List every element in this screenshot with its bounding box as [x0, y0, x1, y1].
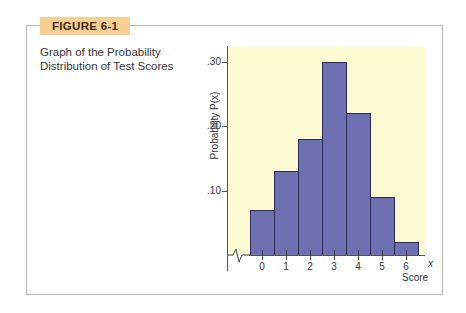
x-tick-label: 5: [375, 261, 389, 272]
x-axis: [249, 255, 425, 256]
y-axis: [227, 46, 228, 271]
x-tick: [334, 250, 335, 260]
y-tick-label: .10: [191, 185, 221, 196]
axis-break-icon: [227, 246, 251, 266]
x-tick: [358, 250, 359, 260]
y-axis-title: Probability P(x): [209, 71, 220, 181]
figure-caption: Graph of the Probability Distribution of…: [40, 45, 210, 73]
x-tick-label: 6: [399, 261, 413, 272]
y-tick: [222, 62, 228, 63]
x-tick-label: 0: [255, 261, 269, 272]
bar-5: [370, 197, 395, 256]
x-tick: [310, 250, 311, 260]
bar-1: [274, 171, 299, 256]
bar-3: [322, 62, 347, 257]
x-axis-title: Score: [402, 272, 428, 283]
bar-4: [346, 113, 371, 256]
x-tick-label: 3: [327, 261, 341, 272]
bar-2: [298, 139, 323, 256]
x-variable-label: x: [428, 258, 433, 269]
x-tick: [286, 250, 287, 260]
y-tick: [222, 126, 228, 127]
x-tick-label: 1: [279, 261, 293, 272]
x-tick: [406, 250, 407, 260]
caption-line-2: Distribution of Test Scores: [40, 59, 210, 73]
x-tick: [382, 250, 383, 260]
x-tick-label: 4: [351, 261, 365, 272]
y-tick: [222, 191, 228, 192]
x-tick-label: 2: [303, 261, 317, 272]
figure-label: FIGURE 6-1: [40, 17, 130, 35]
x-tick: [262, 250, 263, 260]
y-tick-label: .30: [191, 56, 221, 67]
caption-line-1: Graph of the Probability: [40, 45, 210, 59]
